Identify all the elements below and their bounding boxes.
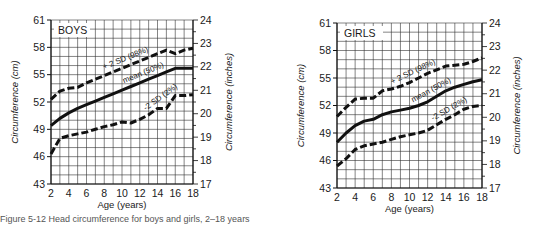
chart-title: BOYS — [58, 24, 87, 36]
x-tick-label: 6 — [84, 187, 90, 199]
x-axis-title: Age (years) — [97, 199, 146, 210]
x-tick-label: 8 — [101, 187, 107, 199]
y-axis-title: Circumference (cm) — [9, 60, 20, 143]
chart-title: GIRLS — [344, 27, 376, 39]
x-tick-label: 2 — [334, 191, 340, 203]
y-tick-label: 61 — [319, 17, 331, 29]
y-tick-label: 52 — [33, 96, 45, 108]
y-right-tick-label: 21 — [200, 84, 212, 96]
y-tick-label: 58 — [319, 44, 331, 56]
x-axis-title: Age (years) — [385, 203, 434, 214]
x-tick-label: 12 — [422, 191, 434, 203]
y-tick-label: 49 — [319, 127, 331, 139]
y-tick-label: 43 — [33, 178, 45, 190]
y-right-tick-label: 17 — [200, 178, 212, 190]
x-tick-label: 6 — [370, 191, 376, 203]
x-tick-label: 10 — [116, 187, 128, 199]
y-right-tick-label: 19 — [489, 134, 501, 146]
x-tick-label: 12 — [134, 187, 146, 199]
x-tick-label: 4 — [352, 191, 358, 203]
y-right-tick-label: 23 — [489, 40, 501, 52]
x-tick-label: 18 — [476, 191, 488, 203]
y-tick-label: 52 — [319, 99, 331, 111]
x-tick-label: 18 — [187, 187, 199, 199]
y-tick-label: 61 — [33, 14, 45, 26]
y-right-tick-label: 22 — [489, 64, 501, 76]
x-tick-label: 14 — [440, 191, 452, 203]
y-tick-label: 46 — [33, 150, 45, 162]
y-tick-label: 46 — [319, 154, 331, 166]
y-axis-title: Circumference (cm) — [295, 64, 306, 147]
y-right-tick-label: 24 — [200, 14, 212, 26]
y-right-tick-label: 21 — [489, 87, 501, 99]
y-right-tick-label: 23 — [200, 37, 212, 49]
y-tick-label: 49 — [33, 123, 45, 135]
y-tick-label: 43 — [319, 182, 331, 194]
y-right-tick-label: 19 — [200, 131, 212, 143]
y-axis-right-title: Circumference (inches) — [223, 53, 234, 151]
girls-chart: 4346495255586117181920212223242468101214… — [295, 17, 522, 215]
y-tick-label: 55 — [33, 68, 45, 80]
x-tick-label: 16 — [169, 187, 181, 199]
grid — [51, 20, 193, 184]
y-right-tick-label: 18 — [489, 158, 501, 170]
y-right-tick-label: 22 — [200, 60, 212, 72]
y-right-tick-label: 20 — [489, 111, 501, 123]
x-tick-label: 16 — [458, 191, 470, 203]
x-tick-label: 14 — [152, 187, 164, 199]
x-tick-label: 10 — [404, 191, 416, 203]
boys-chart: 4346495255586117181920212223242468101214… — [9, 14, 234, 211]
y-tick-label: 58 — [33, 41, 45, 53]
x-tick-label: 4 — [66, 187, 72, 199]
y-tick-label: 55 — [319, 72, 331, 84]
y-right-tick-label: 20 — [200, 107, 212, 119]
y-axis-right-title: Circumference (inches) — [511, 56, 522, 154]
y-right-tick-label: 24 — [489, 17, 501, 29]
y-right-tick-label: 17 — [489, 182, 501, 194]
head-circumference-charts: 4346495255586117181920212223242468101214… — [0, 0, 536, 227]
x-tick-label: 2 — [48, 187, 54, 199]
figure-caption: Figure 5-12 Head circumference for boys … — [0, 214, 250, 224]
x-tick-label: 8 — [388, 191, 394, 203]
y-right-tick-label: 18 — [200, 154, 212, 166]
